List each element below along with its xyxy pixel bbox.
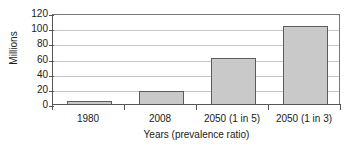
x-tick-label: 2008 <box>149 112 171 125</box>
y-tick-label: 40 <box>37 70 48 80</box>
plot-area <box>52 14 340 105</box>
y-tick-label: 60 <box>37 55 48 65</box>
x-tick-label: 1980 <box>77 112 99 125</box>
y-tick-label: 120 <box>31 9 48 19</box>
x-tick-mark <box>124 105 125 110</box>
y-axis-tick-labels: 020406080100120 <box>20 9 48 105</box>
y-tick-label: 80 <box>37 39 48 49</box>
x-tick-mark <box>268 105 269 110</box>
x-tick-label: 2050 (1 in 3) <box>276 112 332 125</box>
x-tick-mark <box>52 105 53 110</box>
bar <box>211 58 256 105</box>
x-axis-title: Years (prevalence ratio) <box>52 128 341 141</box>
x-axis-tick-marks <box>52 105 341 111</box>
x-axis-tick-labels: 198020082050 (1 in 5)2050 (1 in 3) <box>52 112 341 126</box>
y-axis-title: Millions <box>7 10 21 86</box>
bar <box>283 26 328 105</box>
x-tick-mark <box>196 105 197 110</box>
x-tick-label: 2050 (1 in 5) <box>204 112 260 125</box>
x-tick-mark <box>340 105 341 110</box>
bar-chart-figure: Millions 020406080100120 198020082050 (1… <box>0 0 353 147</box>
bar-series <box>53 15 339 105</box>
y-tick-label: 0 <box>42 100 48 110</box>
bar <box>139 91 184 105</box>
y-tick-label: 100 <box>31 24 48 34</box>
y-tick-label: 20 <box>37 85 48 95</box>
